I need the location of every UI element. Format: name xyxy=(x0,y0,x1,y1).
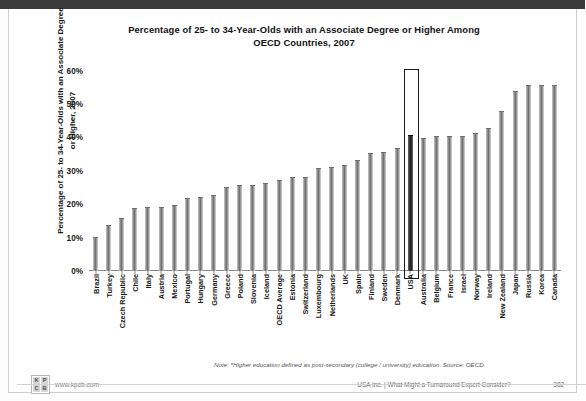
bar-cell xyxy=(233,54,246,271)
x-label-cell: Brazil xyxy=(89,274,102,352)
logo-letter: P xyxy=(41,377,48,384)
bar-cell xyxy=(351,54,364,271)
x-label-cell: Switzerland xyxy=(299,274,312,352)
bar-cell xyxy=(312,54,325,271)
bar-czech-republic xyxy=(119,218,124,271)
x-label-cell: Portugal xyxy=(181,274,194,352)
bar-cell xyxy=(220,54,233,271)
x-label-iceland: Iceland xyxy=(261,274,270,299)
bar-australia xyxy=(421,138,426,271)
x-label-cell: Mexico xyxy=(168,274,181,352)
bar-cell xyxy=(338,54,351,271)
bar-cell xyxy=(482,54,495,271)
x-axis-labels: BrazilTurkeyCzech RepublicChileItalyAust… xyxy=(89,274,561,352)
bar-estonia xyxy=(290,177,295,271)
y-tick-label: 50% xyxy=(67,100,89,109)
x-label-hungary: Hungary xyxy=(196,274,205,304)
bar-cell xyxy=(364,54,377,271)
bar-ireland xyxy=(486,128,491,271)
x-label-germany: Germany xyxy=(209,274,218,306)
bar-iceland xyxy=(263,183,268,271)
bar-austria xyxy=(159,207,164,271)
x-label-luxembourg: Luxembourg xyxy=(314,274,323,318)
bar-korea xyxy=(539,85,544,271)
bar-greece xyxy=(224,187,229,271)
bar-germany xyxy=(211,195,216,271)
bar-new-zealand xyxy=(499,111,504,271)
bar-mexico xyxy=(172,205,177,271)
bar-cell xyxy=(377,54,390,271)
bar-oecd-average xyxy=(277,180,282,271)
x-label-austria: Austria xyxy=(157,274,166,299)
x-label-cell: Hungary xyxy=(194,274,207,352)
x-label-cell: Japan xyxy=(509,274,522,352)
x-label-korea: Korea xyxy=(537,274,546,295)
x-label-cell: Canada xyxy=(548,274,561,352)
bar-russia xyxy=(526,85,531,271)
x-label-israel: Israel xyxy=(458,274,467,293)
bar-switzerland xyxy=(303,177,308,271)
x-label-cell: Belgium xyxy=(430,274,443,352)
x-label-ireland: Ireland xyxy=(484,274,493,298)
x-label-cell: Iceland xyxy=(259,274,272,352)
x-label-cell: Estonia xyxy=(286,274,299,352)
bar-sweden xyxy=(381,152,386,272)
x-label-cell: New Zealand xyxy=(495,274,508,352)
x-label-greece: Greece xyxy=(222,274,231,299)
bar-cell xyxy=(194,54,207,271)
bar-portugal xyxy=(185,198,190,271)
x-label-slovenia: Slovenia xyxy=(248,274,257,304)
x-label-cell: Spain xyxy=(351,274,364,352)
bar-cell xyxy=(417,54,430,271)
bar-cell xyxy=(246,54,259,271)
y-tick-label: 0% xyxy=(71,267,89,276)
bar-cell xyxy=(115,54,128,271)
x-label-cell: Germany xyxy=(207,274,220,352)
x-label-cell: Korea xyxy=(535,274,548,352)
bar-brazil xyxy=(93,237,98,271)
x-label-cell: Poland xyxy=(233,274,246,352)
bar-cell xyxy=(155,54,168,271)
x-label-cell: Norway xyxy=(469,274,482,352)
x-label-cell: Australia xyxy=(417,274,430,352)
x-label-cell: France xyxy=(443,274,456,352)
bar-hungary xyxy=(198,197,203,271)
x-label-italy: Italy xyxy=(143,274,152,289)
x-label-denmark: Denmark xyxy=(393,274,402,305)
x-label-cell: UK xyxy=(338,274,351,352)
slide-canvas: Percentage of 25- to 34-Year-Olds with a… xyxy=(8,9,577,393)
x-label-belgium: Belgium xyxy=(432,274,441,303)
bar-cell xyxy=(259,54,272,271)
bar-cell xyxy=(102,54,115,271)
x-label-norway: Norway xyxy=(471,274,480,300)
x-label-oecd-average: OECD Average xyxy=(275,274,284,325)
x-label-australia: Australia xyxy=(419,274,428,305)
x-label-brazil: Brazil xyxy=(91,274,100,294)
x-label-cell: Italy xyxy=(141,274,154,352)
x-label-czech-republic: Czech Republic xyxy=(117,274,126,328)
bar-cell xyxy=(141,54,154,271)
bar-uk xyxy=(342,165,347,271)
x-label-japan: Japan xyxy=(511,274,520,295)
bar-italy xyxy=(145,207,150,271)
bar-cell xyxy=(273,54,286,271)
bar-cell xyxy=(522,54,535,271)
x-label-usa: USA xyxy=(406,274,415,289)
x-label-cell: Finland xyxy=(364,274,377,352)
y-tick-label: 10% xyxy=(67,233,89,242)
x-label-portugal: Portugal xyxy=(183,274,192,304)
bar-spain xyxy=(355,160,360,271)
bar-canada xyxy=(552,85,557,271)
chart-title-line-1: Percentage of 25- to 34-Year-Olds with a… xyxy=(128,24,480,35)
x-label-cell: Israel xyxy=(456,274,469,352)
plot-area: 60%50%40%30%20%10%0% xyxy=(89,54,561,271)
x-label-new-zealand: New Zealand xyxy=(497,274,506,319)
x-label-cell: Denmark xyxy=(391,274,404,352)
bar-japan xyxy=(513,91,518,271)
x-label-cell: Austria xyxy=(155,274,168,352)
bar-cell xyxy=(181,54,194,271)
logo-letter: K xyxy=(33,377,40,384)
source-note: Note: *Higher education defined as post-… xyxy=(214,361,559,368)
logo-letter: C xyxy=(33,385,40,392)
